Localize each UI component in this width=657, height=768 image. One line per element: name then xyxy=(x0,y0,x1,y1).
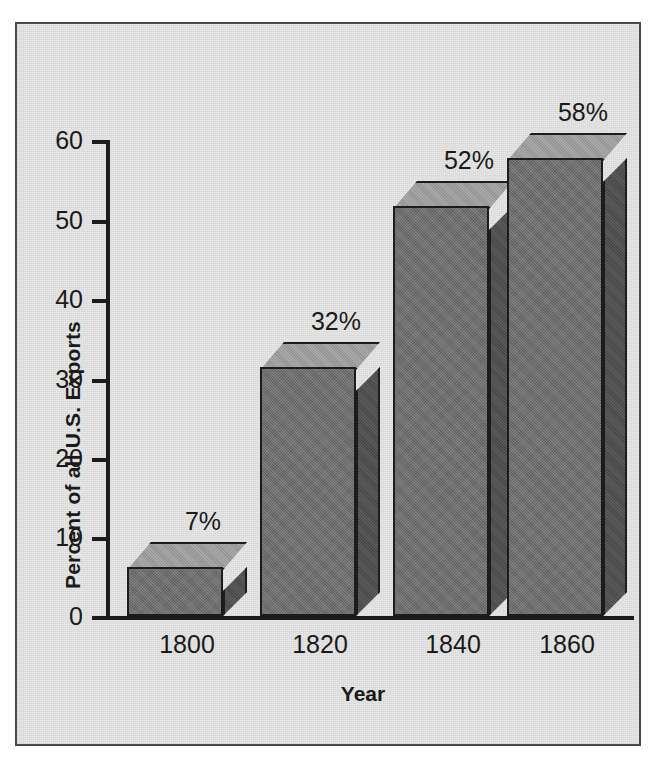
y-tick-label-50: 50 xyxy=(23,206,83,235)
bar-1800-value-label: 7% xyxy=(148,507,258,536)
y-tick-40 xyxy=(92,299,107,303)
y-tick-0 xyxy=(92,616,107,620)
bar-1840-top-face xyxy=(393,181,513,209)
x-tick-label-1820: 1820 xyxy=(255,630,385,659)
y-tick-50 xyxy=(92,220,107,224)
bar-1860-front-face xyxy=(507,158,603,616)
figure-frame: 0 10 20 30 40 50 60 Percent of all U.S. … xyxy=(15,22,641,746)
x-tick-label-1800: 1800 xyxy=(122,630,252,659)
y-tick-label-0: 0 xyxy=(23,602,83,631)
bar-1800-top-face xyxy=(127,542,247,570)
bar-1860-value-label: 58% xyxy=(528,98,638,127)
y-axis-title: Percent of all U.S. Exports xyxy=(61,321,85,589)
bar-1820-front-face xyxy=(260,367,356,616)
bar-1860-side-face xyxy=(603,158,627,616)
y-tick-20 xyxy=(92,458,107,462)
scanned-page: 0 10 20 30 40 50 60 Percent of all U.S. … xyxy=(0,0,657,768)
bar-1840-front-face xyxy=(393,206,489,616)
bar-1820-side-face xyxy=(356,367,380,616)
y-tick-10 xyxy=(92,537,107,541)
y-tick-label-60: 60 xyxy=(23,126,83,155)
bar-1820-top-face xyxy=(260,342,380,370)
bar-1840[interactable] xyxy=(393,24,513,620)
x-axis-title: Year xyxy=(17,682,643,706)
plot-area: 0 10 20 30 40 50 60 Percent of all U.S. … xyxy=(17,24,643,748)
y-tick-label-40: 40 xyxy=(23,285,83,314)
x-tick-label-1860: 1860 xyxy=(502,630,632,659)
y-tick-30 xyxy=(92,379,107,383)
x-tick-label-1840: 1840 xyxy=(388,630,518,659)
bar-1860-top-face xyxy=(507,133,627,161)
bar-1800-side-face xyxy=(223,567,247,616)
bar-1820-value-label: 32% xyxy=(281,307,391,336)
y-tick-60 xyxy=(92,140,107,144)
bar-1800-front-face xyxy=(127,567,223,616)
